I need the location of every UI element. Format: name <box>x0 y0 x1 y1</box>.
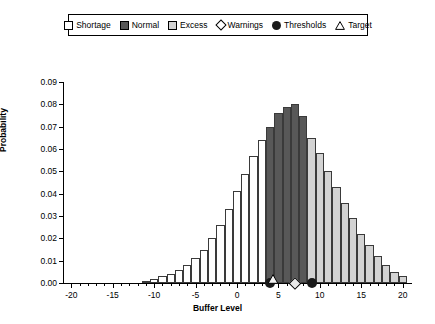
x-axis-tick-minor <box>353 283 354 286</box>
bar-shortage <box>233 191 241 283</box>
x-axis-tick-label: -10 <box>148 290 160 300</box>
x-axis-title: Buffer Level <box>0 303 435 313</box>
x-axis-tick-minor <box>220 283 221 286</box>
bar-normal <box>299 116 307 284</box>
y-axis-tick <box>59 127 63 128</box>
threshold-high-marker <box>307 278 317 288</box>
y-axis-tick <box>59 194 63 195</box>
bar-excess <box>332 187 340 283</box>
y-axis-title: Probability <box>0 108 8 152</box>
x-axis-tick-minor <box>204 283 205 286</box>
x-axis-tick-minor <box>138 283 139 286</box>
x-axis-tick-label: -5 <box>192 290 200 300</box>
legend-item-normal: Normal <box>120 21 159 30</box>
bar-shortage <box>208 238 216 283</box>
y-axis-tick <box>59 238 63 239</box>
x-axis-tick-major <box>154 283 155 288</box>
x-axis-tick-minor <box>104 283 105 286</box>
x-axis-tick-major <box>361 283 362 288</box>
x-axis-tick-minor <box>96 283 97 286</box>
y-axis-tick <box>59 82 63 83</box>
y-axis-tick <box>59 104 63 105</box>
x-axis-tick-minor <box>229 283 230 286</box>
x-axis-tick-label: -15 <box>107 290 119 300</box>
x-axis-tick-label: 0 <box>235 290 240 300</box>
legend-item-label: Target <box>348 21 372 30</box>
legend-item-label: Normal <box>132 21 159 30</box>
square-icon <box>168 21 177 30</box>
bar-shortage <box>249 156 257 283</box>
square-icon <box>64 21 73 30</box>
bar-shortage <box>167 274 175 283</box>
x-axis-tick-minor <box>378 283 379 286</box>
bar-shortage <box>200 250 208 284</box>
y-axis-tick-label: 0.01 <box>40 256 57 266</box>
target-marker <box>267 270 278 288</box>
y-axis-tick-label: 0.03 <box>40 211 57 221</box>
x-axis-tick-major <box>237 283 238 288</box>
chart-page: ShortageNormalExcessWarningsThresholdsTa… <box>0 0 435 324</box>
y-axis-tick <box>59 261 63 262</box>
square-icon <box>120 21 129 30</box>
x-axis-tick-major <box>196 283 197 288</box>
diamond-icon <box>215 19 226 30</box>
bar-excess <box>316 153 324 283</box>
bar-normal <box>274 113 282 283</box>
legend-item-label: Shortage <box>76 21 111 30</box>
x-axis-tick-minor <box>303 283 304 286</box>
legend-item-excess: Excess <box>168 21 207 30</box>
x-axis-tick-minor <box>162 283 163 286</box>
y-axis-tick-label: 0.07 <box>40 122 57 132</box>
bar-excess <box>349 218 357 283</box>
x-axis-tick-minor <box>121 283 122 286</box>
bar-excess <box>324 171 332 283</box>
bar-excess <box>365 245 373 283</box>
bar-excess <box>399 276 407 283</box>
x-axis-tick-minor <box>245 283 246 286</box>
bar-excess <box>382 265 390 283</box>
bar-excess <box>341 203 349 283</box>
bar-normal <box>283 107 291 283</box>
x-axis-tick-minor <box>146 283 147 286</box>
x-axis-tick-label: 10 <box>315 290 324 300</box>
bar-excess <box>390 272 398 283</box>
bar-shortage <box>241 174 249 283</box>
x-axis-tick-minor <box>287 283 288 286</box>
legend-item-warnings: Warnings <box>217 21 264 30</box>
x-axis-tick-minor <box>254 283 255 286</box>
x-axis-tick-major <box>320 283 321 288</box>
x-axis-tick-minor <box>262 283 263 286</box>
y-axis-tick-label: 0.02 <box>40 233 57 243</box>
legend-item-label: Excess <box>180 21 207 30</box>
bar-shortage <box>216 225 224 283</box>
y-axis-tick-label: 0.00 <box>40 278 57 288</box>
bar-excess <box>374 256 382 283</box>
x-axis-tick-label: 15 <box>357 290 366 300</box>
y-axis-tick <box>59 283 63 284</box>
bar-shortage <box>183 265 191 283</box>
x-axis-tick-minor <box>386 283 387 286</box>
x-axis-tick-major <box>403 283 404 288</box>
x-axis-tick-label: 5 <box>276 290 281 300</box>
bar-shortage <box>191 258 199 283</box>
circle-icon <box>272 21 281 30</box>
legend-item-target: Target <box>335 20 372 30</box>
y-axis-tick-label: 0.06 <box>40 144 57 154</box>
plot-area: 0.000.010.020.030.040.050.060.070.080.09… <box>63 82 411 283</box>
x-axis-tick-minor <box>171 283 172 286</box>
x-axis-tick-minor <box>212 283 213 286</box>
x-axis-tick-minor <box>179 283 180 286</box>
bar-normal <box>266 127 274 283</box>
x-axis-tick-minor <box>88 283 89 286</box>
legend-item-label: Warnings <box>228 21 264 30</box>
bar-shortage <box>158 276 166 283</box>
bar-shortage <box>175 270 183 283</box>
y-axis-tick <box>59 149 63 150</box>
y-axis-tick-label: 0.08 <box>40 99 57 109</box>
y-axis-tick-label: 0.09 <box>40 77 57 87</box>
triangle-icon <box>335 20 345 30</box>
bar-shortage <box>258 140 266 283</box>
y-axis-tick <box>59 171 63 172</box>
x-axis-tick-major <box>113 283 114 288</box>
x-axis-tick-minor <box>394 283 395 286</box>
